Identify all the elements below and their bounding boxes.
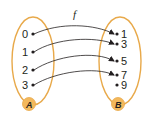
function-label: f — [73, 8, 78, 20]
function-mapping-diagram: f 0 1 2 3 1 3 5 7 9 A — [0, 0, 153, 119]
dot-icon — [31, 68, 34, 71]
dot-icon — [115, 73, 118, 76]
set-b-element-label: 5 — [121, 55, 127, 67]
set-b-element: 5 — [115, 55, 127, 67]
set-a-element-label: 3 — [22, 79, 28, 91]
set-a-element: 0 — [22, 28, 35, 40]
set-a-element-label: 2 — [22, 64, 28, 76]
set-a-name: A — [25, 100, 33, 110]
dot-icon — [115, 32, 118, 35]
set-b-element-label: 3 — [121, 38, 127, 50]
dot-icon — [115, 42, 118, 45]
set-b-name: B — [115, 100, 122, 110]
set-a-element-label: 0 — [22, 28, 28, 40]
set-a-badge: A — [23, 98, 36, 111]
set-a-element: 1 — [22, 46, 35, 58]
set-a-oval — [12, 17, 54, 105]
dot-icon — [115, 59, 118, 62]
dot-icon — [31, 32, 34, 35]
dot-icon — [115, 83, 118, 86]
set-b-element: 9 — [115, 79, 127, 91]
mapping-arrow-2-to-5 — [34, 55, 114, 70]
dot-icon — [31, 83, 34, 86]
set-b-element: 3 — [115, 38, 127, 50]
set-b-element-label: 9 — [121, 79, 127, 91]
set-a-element: 2 — [22, 64, 35, 76]
dot-icon — [31, 50, 34, 53]
mapping-arrow-1-to-3 — [34, 39, 114, 52]
set-a-element-label: 1 — [22, 46, 28, 58]
set-b-badge: B — [112, 98, 125, 111]
set-a-element: 3 — [22, 79, 35, 91]
